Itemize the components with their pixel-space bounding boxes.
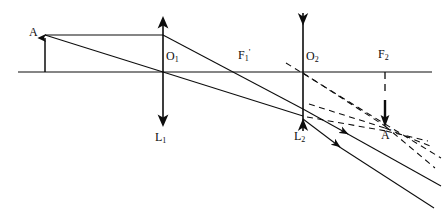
exit-ray-upper-continued xyxy=(346,133,441,186)
ray-center-incident xyxy=(45,35,163,72)
exit-ray-upper xyxy=(303,109,348,134)
virtual-ray-third-beyond xyxy=(385,128,430,146)
optics-ray-diagram: A O1 L1 F1' O2 L2 F2 A' xyxy=(0,0,446,214)
virtual-ray-lower-beyond xyxy=(385,126,435,168)
label-focal2: F2 xyxy=(378,48,389,62)
virtual-ray-third xyxy=(309,104,385,128)
label-lens2-center: O2 xyxy=(306,50,319,64)
exit-ray-lower xyxy=(303,119,340,147)
label-object-point: A xyxy=(29,26,38,38)
virtual-ray-upper-beyond xyxy=(385,124,441,158)
label-focal1-image: F1' xyxy=(238,48,250,63)
ray-diagram-canvas xyxy=(0,0,446,214)
label-image-point: A' xyxy=(381,128,391,141)
virtual-ray-fourth-beyond xyxy=(386,131,428,141)
virtual-ray-lower xyxy=(303,73,385,126)
label-lens1-center: O1 xyxy=(166,50,179,64)
label-lens2-name: L2 xyxy=(294,130,305,144)
ray-center-after-l1 xyxy=(163,72,303,116)
label-lens1-name: L1 xyxy=(155,131,166,145)
